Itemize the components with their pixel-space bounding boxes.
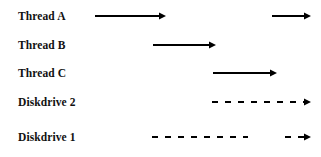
arrowhead-icon (304, 134, 311, 141)
diagram-canvas: Thread A Thread B Thread C Diskdrive 2 D… (0, 0, 321, 157)
timeline-row: Diskdrive 2 (0, 88, 321, 117)
timeline-row: Thread B (0, 31, 321, 60)
timeline-track-thread-c (0, 59, 321, 88)
timeline-row: Diskdrive 1 (0, 123, 321, 152)
arrowhead-icon (304, 13, 311, 20)
timeline-row: Thread C (0, 59, 321, 88)
timeline-track-thread-a (0, 2, 321, 31)
timeline-track-diskdrive-2 (0, 88, 321, 117)
timeline-row: Thread A (0, 2, 321, 31)
timeline-track-thread-b (0, 31, 321, 60)
arrowhead-icon (270, 70, 277, 77)
arrowhead-icon (209, 42, 216, 49)
timeline-track-diskdrive-1 (0, 123, 321, 152)
arrowhead-icon (159, 13, 166, 20)
arrowhead-icon (304, 99, 311, 106)
